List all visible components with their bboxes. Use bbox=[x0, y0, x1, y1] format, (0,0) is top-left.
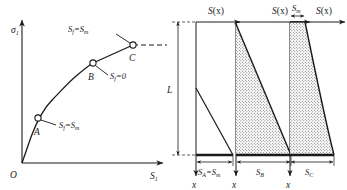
sigma-axis-label: σ1 bbox=[11, 25, 19, 36]
sb-label: SB bbox=[256, 167, 264, 178]
sx-label-a: S(x) bbox=[208, 6, 224, 17]
sm-label: Sm bbox=[292, 3, 301, 14]
curve-segment-a-b bbox=[53, 63, 93, 99]
figure-container: σ1 S1 O A B C Sf=Sm Sf=0 Sf=Sm bbox=[0, 0, 347, 190]
sc-label: SC bbox=[305, 167, 314, 178]
profile-panel-a: L S(x) SA=Sm x bbox=[166, 6, 240, 190]
annotation-point-b: Sf=0 bbox=[110, 71, 127, 82]
s1-axis-label: S1 bbox=[150, 171, 158, 182]
point-label-b: B bbox=[88, 72, 94, 82]
distribution-area-c bbox=[290, 22, 334, 155]
sx-label-b: S(x) bbox=[272, 6, 288, 17]
origin-label: O bbox=[10, 170, 17, 180]
depth-axis-label-c: x bbox=[285, 180, 291, 190]
point-label-c: C bbox=[129, 53, 136, 63]
curve-segment-b-c bbox=[93, 45, 133, 63]
leader-line-c bbox=[116, 34, 130, 43]
leader-line-a bbox=[41, 120, 56, 125]
annotation-point-a: Sf=Sm bbox=[59, 120, 80, 131]
length-label: L bbox=[166, 85, 172, 95]
sx-label-c: S(x) bbox=[316, 6, 332, 17]
point-marker-a bbox=[35, 115, 41, 121]
distribution-edge-a bbox=[196, 88, 233, 155]
annotation-point-c: Sf=Sm bbox=[68, 24, 89, 35]
point-label-a: A bbox=[33, 127, 40, 137]
point-marker-b bbox=[90, 60, 96, 66]
sa-label: SA=Sm bbox=[198, 167, 221, 178]
depth-axis-label-b: x bbox=[231, 180, 237, 190]
leader-line-b bbox=[96, 66, 108, 75]
depth-axis-label-a: x bbox=[191, 180, 197, 190]
profile-panel-c: S(x) Sm SC x bbox=[285, 3, 345, 190]
figure-svg: σ1 S1 O A B C Sf=Sm Sf=0 Sf=Sm bbox=[0, 0, 347, 190]
point-marker-c bbox=[130, 42, 136, 48]
stress-strain-panel: σ1 S1 O A B C Sf=Sm Sf=0 Sf=Sm bbox=[10, 20, 167, 182]
